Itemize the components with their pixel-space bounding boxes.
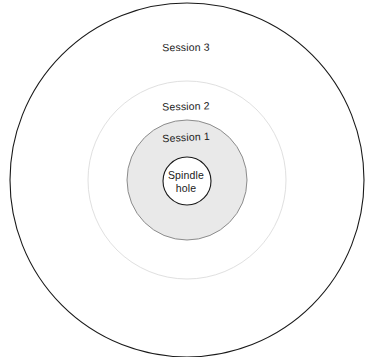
spindle-hole-label-line-1: Spindle (0, 169, 372, 182)
spindle-hole-label: Spindle hole (0, 169, 372, 195)
concentric-session-diagram: Session 3 Session 2 Session 1 Spindle ho… (0, 0, 372, 357)
spindle-hole-label-line-2: hole (0, 182, 372, 195)
